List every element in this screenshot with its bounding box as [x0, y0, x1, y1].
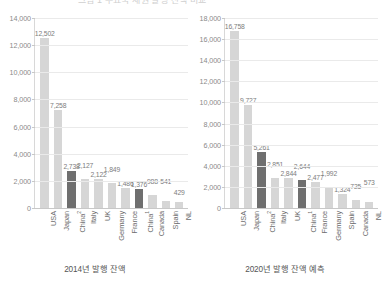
bar-slot[interactable]: 12,502 — [38, 18, 51, 208]
bar-slot[interactable]: 2,851 — [268, 18, 281, 208]
x-axis-right: USAJapanChina2ItalyUKChina1FranceGermany… — [224, 210, 378, 258]
bar[interactable] — [108, 183, 116, 208]
tick-mark-right — [222, 102, 225, 103]
bar-slot[interactable]: 1,324 — [336, 18, 349, 208]
bar-slot[interactable]: 7,258 — [51, 18, 64, 208]
bar-value-label: 2,127 — [77, 162, 93, 169]
chart-left: 02,0004,0006,0008,00010,00012,00014,000 … — [0, 10, 190, 293]
plot-area-right: 02,0004,0006,0008,00010,00012,00014,0001… — [190, 10, 380, 222]
bar[interactable] — [338, 194, 346, 208]
bar[interactable] — [135, 189, 143, 208]
bar-slot[interactable]: 1,992 — [322, 18, 335, 208]
tick-mark-left — [32, 181, 35, 182]
x-axis-left: USAJapanChina2ItalyUKGermanyFranceChina1… — [34, 210, 188, 258]
y-tick-label-left: 12,000 — [10, 41, 31, 50]
bar[interactable] — [81, 179, 89, 208]
bars-left: 12,5027,2582,7382,1272,1221,8491,4861,37… — [35, 18, 188, 208]
bar-value-label: 7,258 — [50, 102, 66, 109]
bar-slot[interactable]: 541 — [159, 18, 172, 208]
chart-right: 02,0004,0006,0008,00010,00012,00014,0001… — [190, 10, 380, 293]
bar[interactable] — [148, 195, 156, 208]
y-tick-label-right: 8,000 — [204, 119, 222, 128]
grid-area-right: 16,7589,7275,2612,8512,8442,6442,4771,99… — [224, 18, 378, 208]
tick-mark-left — [32, 18, 35, 19]
bar[interactable] — [352, 200, 360, 208]
bar[interactable] — [54, 110, 62, 209]
gridline-left — [35, 208, 188, 209]
grid-area-left: 12,5027,2582,7382,1272,1221,8491,4861,37… — [34, 18, 188, 208]
x-tick-slot: France — [308, 210, 322, 258]
bar[interactable] — [40, 38, 48, 208]
x-tick-slot: Canada — [145, 210, 159, 258]
bar[interactable] — [121, 188, 129, 208]
tick-mark-right — [222, 187, 225, 188]
bar-slot[interactable]: 2,122 — [92, 18, 105, 208]
plot-area-left: 02,0004,0006,0008,00010,00012,00014,000 … — [0, 10, 190, 222]
tick-mark-left — [32, 72, 35, 73]
bar-value-label: 1,849 — [104, 166, 120, 173]
tick-mark-left — [32, 208, 35, 209]
bar[interactable] — [257, 152, 265, 208]
charts-row: 02,0004,0006,0008,00010,00012,00014,000 … — [0, 10, 380, 293]
x-tick-slot: China1 — [132, 210, 146, 258]
tick-mark-right — [222, 39, 225, 40]
bar-value-label: 2,844 — [280, 170, 296, 177]
x-tick-slot: NL — [172, 210, 186, 258]
gridline-right — [225, 187, 378, 188]
bar[interactable] — [311, 182, 319, 208]
bar[interactable] — [271, 178, 279, 208]
bar-slot[interactable]: 2,477 — [309, 18, 322, 208]
gridline-right — [225, 124, 378, 125]
bar-slot[interactable]: 429 — [173, 18, 186, 208]
x-tick-slot: USA — [37, 210, 51, 258]
bar-slot[interactable]: 16,758 — [228, 18, 241, 208]
bar-value-label: 429 — [174, 189, 185, 196]
bar-slot[interactable]: 988 — [146, 18, 159, 208]
tick-mark-right — [222, 166, 225, 167]
bar-slot[interactable]: 573 — [363, 18, 376, 208]
bar-slot[interactable]: 5,261 — [255, 18, 268, 208]
gridline-left — [35, 154, 188, 155]
tick-mark-left — [32, 99, 35, 100]
y-tick-label-right: 14,000 — [200, 56, 221, 65]
gridline-right — [225, 208, 378, 209]
tick-mark-left — [32, 154, 35, 155]
tick-mark-right — [222, 145, 225, 146]
x-tick-slot: NL — [362, 210, 376, 258]
bar[interactable] — [94, 179, 102, 208]
x-tick-slot: UK — [91, 210, 105, 258]
chart-caption-left: 2014년 발행 잔액 — [0, 262, 190, 274]
x-tick-slot: Canada — [349, 210, 363, 258]
cropped-headline-text: 그림 1 주요국 채권 발행 잔액 비교 — [78, 0, 206, 6]
bar-slot[interactable]: 2,127 — [78, 18, 91, 208]
bar[interactable] — [67, 171, 75, 208]
bar[interactable] — [284, 178, 292, 208]
x-tick-slot: USA — [227, 210, 241, 258]
bar-slot[interactable]: 1,376 — [132, 18, 145, 208]
y-tick-label-right: 18,000 — [200, 14, 221, 23]
y-tick-label-left: 0 — [27, 204, 31, 213]
bar-value-label: 1,376 — [131, 181, 147, 188]
x-tick-slot: Spain — [335, 210, 349, 258]
gridline-left — [35, 18, 188, 19]
bar-slot[interactable]: 2,844 — [282, 18, 295, 208]
bar[interactable] — [325, 187, 333, 208]
x-tick-slot: China1 — [295, 210, 309, 258]
y-tick-label-right: 4,000 — [204, 161, 222, 170]
bar[interactable] — [244, 105, 252, 208]
bar[interactable] — [162, 201, 170, 208]
y-axis-left: 02,0004,0006,0008,00010,00012,00014,000 — [0, 18, 33, 208]
bar-value-label: 2,851 — [267, 161, 283, 168]
x-tick-slot: Italy — [78, 210, 92, 258]
bar-slot[interactable]: 9,727 — [241, 18, 254, 208]
x-tick-slot: Italy — [268, 210, 282, 258]
bar-slot[interactable]: 1,486 — [119, 18, 132, 208]
bar-slot[interactable]: 2,738 — [65, 18, 78, 208]
bar[interactable] — [298, 180, 306, 208]
bar-value-label: 573 — [364, 179, 375, 186]
bar-slot[interactable]: 725 — [349, 18, 362, 208]
gridline-left — [35, 45, 188, 46]
y-tick-label-left: 4,000 — [14, 149, 32, 158]
bars-right: 16,7589,7275,2612,8512,8442,6442,4771,99… — [225, 18, 378, 208]
bar[interactable] — [230, 31, 238, 208]
